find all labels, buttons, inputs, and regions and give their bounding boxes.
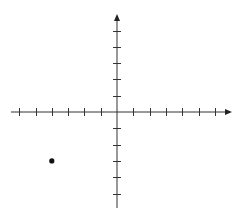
x-axis-arrow-icon: [225, 109, 232, 115]
coordinate-plane: [0, 0, 247, 213]
plotted-points: [49, 158, 54, 163]
y-axis-arrow-icon: [114, 14, 120, 21]
plotted-point: [49, 158, 54, 163]
